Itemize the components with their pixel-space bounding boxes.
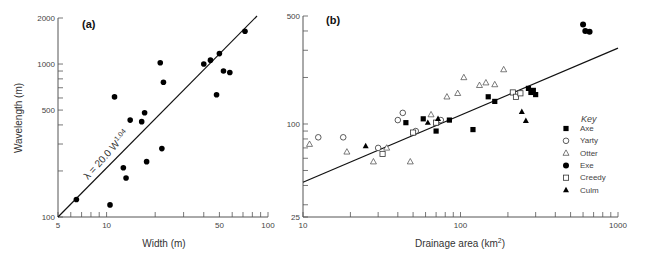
data-point-axe <box>470 127 475 132</box>
data-point <box>139 119 145 125</box>
x-axis-label: Drainage area (km2) <box>415 237 505 249</box>
data-point-yarty <box>315 135 321 141</box>
legend-label-culm: Culm <box>580 186 599 195</box>
fit-line <box>303 48 618 182</box>
data-point <box>121 165 127 171</box>
panel-b: 10100100025100500(b)Drainage area (km2)K… <box>287 12 628 249</box>
data-point <box>144 159 150 165</box>
data-point-exe <box>580 22 586 28</box>
y-tick-label: 100 <box>42 213 56 222</box>
data-point-otter <box>444 94 450 99</box>
x-tick-label: 100 <box>454 221 468 230</box>
data-point-yarty <box>375 145 381 151</box>
data-point <box>201 61 207 67</box>
data-point-otter <box>483 80 489 85</box>
data-point-otter <box>492 81 498 86</box>
fit-exponent: 1.04 <box>113 127 127 142</box>
data-point <box>214 92 220 98</box>
x-tick-label: 5 <box>56 221 61 230</box>
data-point-axe <box>447 117 452 122</box>
panel-a: 5105010010050010002000(a)Width (m)Wavele… <box>13 14 275 249</box>
legend-marker-exe <box>563 162 569 168</box>
y-axis-label: Wavelength (m) <box>13 83 24 153</box>
legend-label-yarty: Yarty <box>580 136 598 145</box>
data-point-yarty <box>395 117 401 123</box>
data-point <box>112 94 118 100</box>
legend-title: Key <box>581 114 597 124</box>
legend-marker-culm <box>563 187 569 192</box>
legend-marker-yarty <box>563 138 569 144</box>
legend-marker-axe <box>563 126 568 131</box>
data-point-creedy <box>518 91 523 96</box>
data-point <box>157 60 163 66</box>
data-point-otter <box>407 159 413 164</box>
y-tick-label: 25 <box>291 213 300 222</box>
legend-label-otter: Otter <box>580 149 598 158</box>
data-point <box>107 202 113 208</box>
data-point-culm <box>363 143 369 148</box>
data-point <box>127 117 133 123</box>
data-point <box>221 68 227 74</box>
y-tick-label: 500 <box>42 106 56 115</box>
data-point-exe <box>587 29 593 35</box>
data-point-axe <box>434 128 439 133</box>
data-point-creedy <box>380 151 385 156</box>
data-point-otter <box>461 74 467 79</box>
x-tick-label: 1000 <box>609 221 627 230</box>
x-axis-label: Width (m) <box>142 238 185 249</box>
data-point-otter <box>428 111 434 116</box>
data-point-creedy <box>410 130 415 135</box>
y-tick-label: 2000 <box>37 14 55 23</box>
data-point <box>227 70 233 76</box>
data-point <box>159 146 165 152</box>
x-tick-label: 10 <box>102 221 111 230</box>
legend-label-exe: Exe <box>580 161 594 170</box>
data-point <box>74 197 80 203</box>
panel-label-a: (a) <box>82 18 96 30</box>
x-tick-label: 10 <box>299 221 308 230</box>
legend-label-axe: Axe <box>580 124 594 133</box>
data-point-axe <box>421 116 426 121</box>
data-point-yarty <box>340 135 346 141</box>
data-point-culm <box>523 118 529 123</box>
data-point-otter <box>501 66 507 71</box>
legend-marker-creedy <box>563 175 568 180</box>
y-tick-label: 1000 <box>37 60 55 69</box>
fit-equation: λ = 20.0 W1.04 <box>81 127 131 181</box>
y-tick-label: 500 <box>287 12 301 21</box>
data-point <box>242 28 248 34</box>
data-point-yarty <box>400 110 406 116</box>
x-axis-label-end: ) <box>502 238 505 249</box>
y-tick-label: 100 <box>287 120 301 129</box>
data-point-otter <box>370 159 376 164</box>
data-point-axe <box>486 94 491 99</box>
legend-marker-otter <box>563 150 569 155</box>
data-point-axe <box>531 88 536 93</box>
data-point-otter <box>344 149 350 154</box>
data-point <box>142 110 148 116</box>
data-point-otter <box>476 82 482 87</box>
data-point-axe <box>403 120 408 125</box>
data-point-axe <box>492 99 497 104</box>
fit-line <box>58 16 257 217</box>
data-point <box>208 57 214 63</box>
x-tick-label: 50 <box>215 221 224 230</box>
data-point-culm <box>519 109 525 114</box>
data-point-otter <box>455 90 461 95</box>
x-tick-label: 100 <box>261 221 275 230</box>
panel-label-b: (b) <box>326 14 340 26</box>
legend-label-creedy: Creedy <box>580 173 606 182</box>
data-point <box>161 79 167 85</box>
legend: KeyAxeYartyOtterExeCreedyCulm <box>563 114 606 195</box>
data-point <box>217 51 223 57</box>
data-point-otter <box>307 141 313 146</box>
data-point <box>123 175 129 181</box>
figure: 5105010010050010002000(a)Width (m)Wavele… <box>0 0 646 261</box>
